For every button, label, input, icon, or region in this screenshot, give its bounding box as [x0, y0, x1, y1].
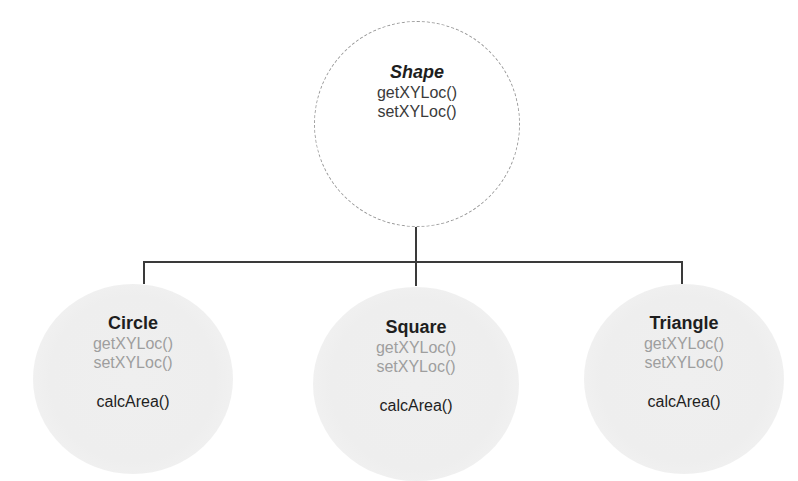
square-title: Square	[313, 316, 519, 338]
circle-method-set: setXYLoc()	[33, 353, 233, 372]
circle-title: Circle	[33, 312, 233, 334]
triangle-method-set: setXYLoc()	[584, 353, 784, 372]
connector-drop-circle	[143, 261, 145, 284]
connector-drop-square	[415, 261, 417, 286]
connector-trunk	[415, 227, 417, 262]
shape-method-get: getXYLoc()	[315, 83, 519, 102]
triangle-node: Triangle getXYLoc() setXYLoc() calcArea(…	[584, 284, 784, 474]
circle-node: Circle getXYLoc() setXYLoc() calcArea()	[33, 284, 233, 474]
square-node: Square getXYLoc() setXYLoc() calcArea()	[313, 287, 519, 481]
square-method-get: getXYLoc()	[313, 338, 519, 357]
square-method-calcarea: calcArea()	[313, 396, 519, 415]
shape-title: Shape	[315, 61, 519, 83]
square-method-set: setXYLoc()	[313, 357, 519, 376]
triangle-method-get: getXYLoc()	[584, 334, 784, 353]
triangle-title: Triangle	[584, 312, 784, 334]
circle-method-calcarea: calcArea()	[33, 392, 233, 411]
circle-method-get: getXYLoc()	[33, 334, 233, 353]
triangle-method-calcarea: calcArea()	[584, 392, 784, 411]
shape-method-set: setXYLoc()	[315, 102, 519, 121]
shape-node: Shape getXYLoc() setXYLoc()	[314, 21, 520, 227]
connector-drop-triangle	[681, 261, 683, 284]
connector-bar	[143, 261, 683, 263]
